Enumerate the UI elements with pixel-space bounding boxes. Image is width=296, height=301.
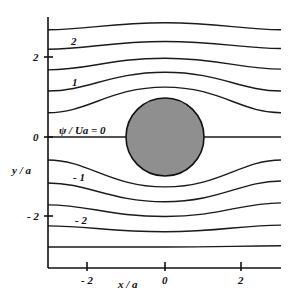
streamline: [48, 72, 281, 91]
streamline: [48, 41, 281, 49]
x-tick-label-2: 2: [237, 274, 244, 286]
streamline-label-0: ψ / Ua = 0: [59, 124, 106, 136]
streamline-label-neg2: - 2: [75, 214, 87, 226]
streamline: [48, 58, 281, 70]
streamline: [48, 225, 281, 232]
cylinder: [126, 98, 204, 176]
streamline-label-1: 1: [72, 76, 78, 88]
x-tick-label-neg2: - 2: [81, 274, 93, 286]
streamline-figure: 2 0 - 2 - 2 0 2 y / a x / a 2 1 ψ / Ua =…: [0, 0, 296, 301]
streamline: [48, 246, 281, 247]
y-tick-label-0: 0: [33, 131, 39, 143]
y-tick-label-neg2: - 2: [27, 210, 39, 222]
y-tick-label-2: 2: [32, 51, 39, 63]
streamline: [48, 181, 281, 202]
y-axis-label: y / a: [10, 164, 31, 176]
streamline-label-neg1: - 1: [73, 171, 85, 183]
streamline: [48, 23, 281, 30]
x-tick-label-0: 0: [162, 274, 168, 286]
streamline-label-2: 2: [70, 35, 77, 47]
x-axis-label: x / a: [117, 278, 138, 290]
